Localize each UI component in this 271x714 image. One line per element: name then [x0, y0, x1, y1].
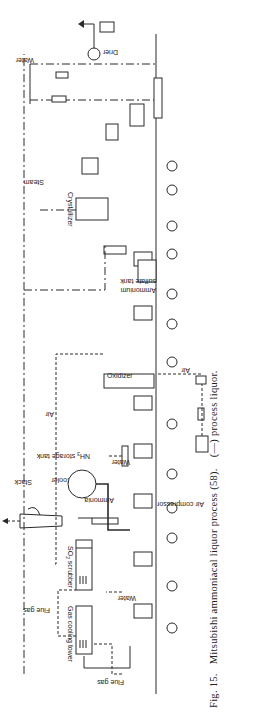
- tank-2: [134, 552, 152, 566]
- steam-label: Steam: [24, 179, 44, 186]
- stack: Stack: [2, 479, 62, 528]
- figure-caption: Fig. 15. Mitsubishi ammoniacal liquor pr…: [208, 370, 220, 708]
- oxidizer-label: Oxidizer: [107, 372, 133, 379]
- tank-3: [134, 494, 152, 508]
- nh3-storage-tank: NH3 storage tank Ammonia: [36, 451, 114, 504]
- tank-4: [134, 444, 152, 458]
- tank-5: [134, 396, 152, 410]
- air-compressor: Air compressor: [156, 376, 208, 508]
- water-heat-exchanger: Water: [108, 446, 130, 466]
- air-label-1: Air: [45, 411, 54, 418]
- ammonium-sulfate-label-1: Ammonium: [120, 287, 156, 294]
- oxidizer: Oxidizer: [104, 372, 154, 388]
- ammonium-sulfate-tank: Ammonium sulfate tank: [120, 260, 156, 294]
- ammonium-sulfate-label-2: sulfate tank: [120, 278, 156, 285]
- drier: Drier: [78, 20, 118, 60]
- gas-cooling-tower-label: Gas cooling tower: [66, 606, 74, 663]
- process-flow-diagram: Gas cooling tower Flue gas Flue gas SO2 …: [0, 0, 271, 714]
- flue-gas-inlet-line: [93, 644, 122, 674]
- water-inlet-label-1: Water: [117, 595, 136, 602]
- pump-row: [167, 161, 177, 633]
- gas-cooling-tower: Gas cooling tower: [66, 606, 92, 663]
- tank-1: [134, 604, 152, 618]
- ammonia-label: Ammonia: [84, 497, 114, 504]
- tank-6: [134, 306, 152, 320]
- so2-scrubber-label: SO2 scrubber: [65, 546, 74, 589]
- drier-label: Drier: [102, 49, 118, 56]
- svg-text:Fig. 15. Mitsubishi ammo: Fig. 15. Mitsubishi ammoniacal liquor pr…: [208, 370, 220, 708]
- water-label-3: Water: [15, 57, 34, 64]
- flue-gas-label: Flue gas: [23, 606, 50, 614]
- nh3-storage-label: NH3 storage tank: [36, 451, 90, 460]
- air-label-2: Air: [181, 367, 190, 374]
- stack-label: Stack: [14, 479, 32, 486]
- valve-group: [30, 64, 68, 104]
- air-compressor-label: Air compressor: [156, 500, 204, 508]
- water-label-2: Water: [111, 459, 130, 466]
- figure-page: Gas cooling tower Flue gas Flue gas SO2 …: [0, 0, 271, 714]
- flue-gas-inlet-label: Flue gas: [97, 678, 124, 686]
- steam-line: [24, 244, 105, 290]
- so2-scrubber: SO2 scrubber: [65, 540, 92, 590]
- crystallizer: Crystallizer: [66, 192, 126, 254]
